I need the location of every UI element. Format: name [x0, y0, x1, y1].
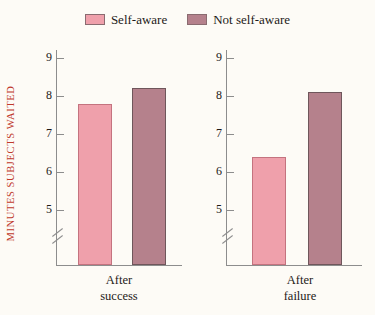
bar-success-not-self-aware: [132, 88, 166, 265]
y-tick-label-6-success: 6: [46, 164, 52, 178]
category-label-line2: success: [36, 288, 202, 304]
y-tick-label-5-success: 5: [46, 202, 52, 216]
y-tick-6-success: 6: [57, 172, 64, 173]
y-tick-label-5-failure: 5: [216, 202, 222, 216]
category-label-line2: failure: [212, 288, 375, 304]
y-tick-label-9-success: 9: [46, 50, 52, 64]
bar-failure-self-aware: [252, 157, 286, 265]
chart-plot-area: MINUTES SUBJECTS WAITED 9 8 7 6 5 After …: [0, 40, 375, 315]
y-tick-label-7-success: 7: [46, 126, 52, 140]
legend-entry-not-self-aware: Not self-aware: [187, 13, 290, 26]
panel-after-success: 9 8 7 6 5 After success: [22, 40, 188, 315]
y-tick-9-failure: 9: [227, 58, 234, 59]
category-label-line1: After: [287, 273, 313, 287]
y-tick-5-failure: 5: [227, 210, 234, 211]
legend-swatch-not-self-aware: [187, 14, 207, 25]
y-tick-5-success: 5: [57, 210, 64, 211]
y-axis-title-text: MINUTES SUBJECTS WAITED: [6, 85, 17, 241]
y-axis-break-success: [51, 232, 64, 235]
y-tick-7-failure: 7: [227, 134, 234, 135]
y-axis-break-failure: [221, 232, 234, 235]
category-label-after-success: After success: [36, 272, 202, 304]
y-tick-9-success: 9: [57, 58, 64, 59]
y-tick-7-success: 7: [57, 134, 64, 135]
legend-label-not-self-aware: Not self-aware: [213, 13, 290, 26]
y-tick-label-8-success: 8: [46, 88, 52, 102]
legend-entry-self-aware: Self-aware: [85, 13, 167, 26]
panel-after-failure: 9 8 7 6 5 After failure: [192, 40, 368, 315]
y-tick-label-9-failure: 9: [216, 50, 222, 64]
legend-label-self-aware: Self-aware: [111, 13, 167, 26]
y-axis-title: MINUTES SUBJECTS WAITED: [3, 52, 19, 274]
x-axis-line-success: [56, 265, 182, 266]
category-label-line1: After: [106, 273, 132, 287]
bar-success-self-aware: [78, 104, 112, 265]
legend-swatch-self-aware: [85, 14, 105, 25]
bar-failure-not-self-aware: [308, 92, 342, 265]
y-tick-label-7-failure: 7: [216, 126, 222, 140]
category-label-after-failure: After failure: [212, 272, 375, 304]
chart-legend: Self-aware Not self-aware: [0, 9, 375, 29]
y-tick-6-failure: 6: [227, 172, 234, 173]
y-tick-8-failure: 8: [227, 96, 234, 97]
y-tick-8-success: 8: [57, 96, 64, 97]
y-tick-label-6-failure: 6: [216, 164, 222, 178]
y-tick-label-8-failure: 8: [216, 88, 222, 102]
x-axis-line-failure: [226, 265, 362, 266]
